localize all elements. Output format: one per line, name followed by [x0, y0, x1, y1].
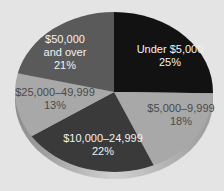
slice-label-line: $50,000 — [44, 33, 87, 46]
slice-label-line: 21% — [44, 59, 87, 72]
slice-label-line: Under $5,000 — [137, 43, 204, 56]
slice-label-line: and over — [44, 46, 87, 59]
slice-label: $5,000–9,99918% — [147, 102, 214, 128]
slice-label: $50,000and over21% — [44, 33, 87, 72]
slice-label: Under $5,00025% — [137, 43, 204, 69]
slice-label-line: $10,000–24,999 — [63, 132, 143, 145]
slice-label: $10,000–24,99922% — [63, 132, 143, 158]
slice-label-line: 18% — [147, 115, 214, 128]
slice-label-line: 22% — [63, 145, 143, 158]
slice-label: $25,000–49,99913% — [15, 86, 95, 112]
slice-label-line: $5,000–9,999 — [147, 102, 214, 115]
pie-chart: Under $5,00025%$5,000–9,99918%$10,000–24… — [0, 0, 224, 191]
slice-label-line: 25% — [137, 56, 204, 69]
slice-label-line: 13% — [15, 99, 95, 112]
slice-label-line: $25,000–49,999 — [15, 86, 95, 99]
